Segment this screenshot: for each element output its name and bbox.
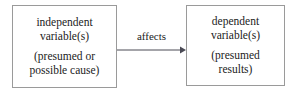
node-independent-variable: independent variable(s) (presumed or pos…	[12, 5, 117, 88]
node-independent-secondary-line-1: (presumed or	[30, 50, 100, 64]
node-dependent-primary-line-1: dependent	[211, 15, 260, 29]
connector-affects: affects	[117, 30, 186, 58]
node-dependent-secondary-text: (presumed results)	[211, 49, 260, 76]
node-independent-secondary-line-2: possible cause)	[30, 64, 100, 78]
causal-relationship-diagram: independent variable(s) (presumed or pos…	[0, 0, 295, 92]
node-dependent-variable: dependent variable(s) (presumed results)	[186, 5, 285, 86]
node-dependent-secondary-line-2: results)	[211, 63, 260, 77]
node-independent-secondary-text: (presumed or possible cause)	[30, 50, 100, 77]
connector-label: affects	[117, 30, 186, 43]
node-independent-primary-line-2: variable(s)	[36, 30, 92, 44]
node-dependent-secondary-line-1: (presumed	[211, 49, 260, 63]
node-independent-primary-line-1: independent	[36, 16, 92, 30]
node-dependent-primary-line-2: variable(s)	[211, 29, 260, 43]
node-independent-primary-text: independent variable(s)	[36, 16, 92, 43]
arrow-right-icon	[117, 44, 186, 56]
node-dependent-primary-text: dependent variable(s)	[211, 15, 260, 42]
